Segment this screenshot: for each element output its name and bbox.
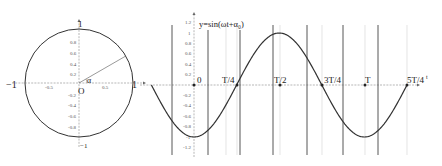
- sine-y-tick: -0.2: [183, 93, 191, 98]
- sine-y-tick: -1: [186, 135, 191, 140]
- sine-x-label: T/4: [222, 75, 235, 85]
- sine-x-label: 0: [197, 75, 202, 85]
- sine-y-tick: 1: [188, 31, 191, 36]
- sine-y-tick: 0.4: [185, 62, 192, 67]
- circle-y-tick: -0.8: [68, 125, 76, 130]
- sine-y-tick: 1.2: [185, 20, 192, 25]
- sine-x-label: T/2: [274, 75, 287, 85]
- grid-lines: [226, 25, 407, 155]
- circle-y-tick: -0.2: [68, 93, 76, 98]
- sine-y-tick: -1.2: [183, 145, 191, 150]
- circle-y-tick: 0.4: [70, 62, 77, 67]
- sine-y-tick: -0.6: [183, 114, 191, 119]
- circle-y-tick: -0.4: [68, 103, 76, 108]
- circle-label-left: −1: [6, 79, 17, 90]
- angle-label: α: [87, 76, 92, 85]
- sine-y-tick: -0.4: [183, 103, 191, 108]
- circle-y-tick: 0.8: [70, 40, 77, 45]
- sine-x-label: 5T/4: [407, 75, 424, 85]
- sine-y-tick: 0.8: [185, 41, 192, 46]
- sine-x-label: T: [365, 75, 371, 85]
- diagram-canvas: −1 1 1 −1 O α -0.5 0.5 0.8 0.6 0.4 0.2 -…: [0, 0, 442, 166]
- circle-x-axis-arrow-icon: [143, 82, 146, 85]
- circle-label-top: 1: [78, 19, 83, 29]
- circle-y-tick: 0.6: [70, 51, 77, 56]
- circle-x-tick: -0.5: [45, 85, 53, 90]
- sine-graph-group: y=sin(ωt+α₀) 0 T/4 T/2 3T/4 T 5T/4 t 1.2…: [140, 12, 428, 157]
- circle-y-tick: 0.2: [70, 72, 77, 77]
- sine-y-tick: 0.6: [185, 51, 192, 56]
- sine-y-tick: -0.8: [183, 124, 191, 129]
- sine-x-label: 3T/4: [324, 75, 341, 85]
- circle-label-right: 1: [132, 79, 137, 90]
- circle-origin-label: O: [78, 86, 85, 96]
- sine-title: y=sin(ωt+α₀): [199, 19, 244, 29]
- sine-axis-end-label: t: [426, 74, 428, 80]
- circle-y-tick: -0.6: [68, 114, 76, 119]
- circle-label-bottom: −1: [80, 142, 88, 150]
- sine-y-tick: 0.2: [185, 72, 192, 77]
- unit-circle-group: −1 1 1 −1 O α -0.5 0.5 0.8 0.6 0.4 0.2 -…: [6, 19, 146, 150]
- vertical-lines: [172, 25, 378, 155]
- circle-x-tick: 0.5: [102, 85, 109, 90]
- sine-y-axis-arrow-icon: [193, 12, 196, 15]
